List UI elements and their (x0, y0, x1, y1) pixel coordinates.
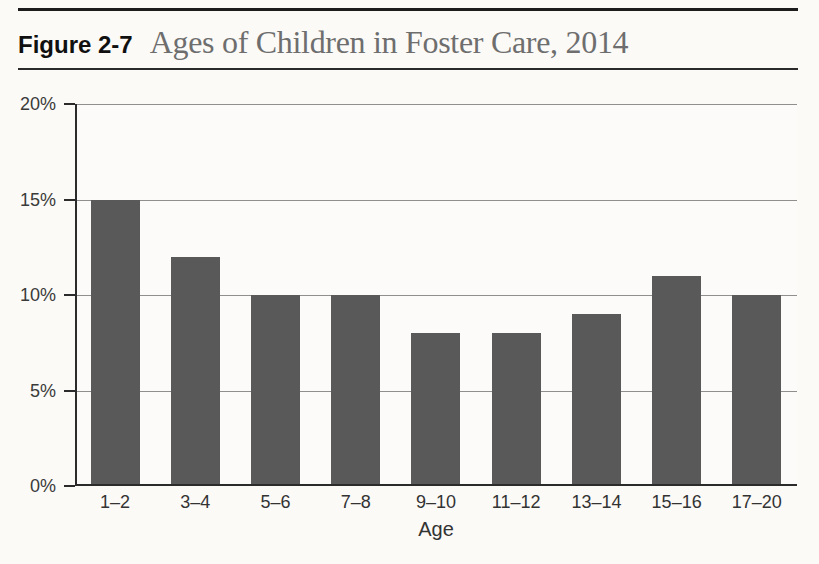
bar-13–14 (572, 314, 621, 486)
x-axis-title: Age (75, 518, 797, 541)
x-tick-label: 3–4 (155, 492, 235, 513)
x-axis-tick-labels: 1–23–45–67–89–1011–1213–1415–1617–20 (75, 492, 797, 513)
x-tick-label: 11–12 (476, 492, 556, 513)
bar-15–16 (652, 276, 701, 486)
y-tick-mark (64, 390, 75, 392)
bar-9–10 (411, 333, 460, 486)
x-tick-label: 1–2 (75, 492, 155, 513)
y-tick-label: 0% (30, 476, 56, 497)
x-axis-line (75, 484, 797, 486)
bar-17–20 (732, 295, 781, 486)
x-tick-label: 15–16 (637, 492, 717, 513)
y-tick-label: 10% (20, 285, 56, 306)
bar-7–8 (331, 295, 380, 486)
scanned-textbook-page: Figure 2-7 Ages of Children in Foster Ca… (0, 0, 819, 564)
y-tick-mark (64, 103, 75, 105)
top-rule-divider (18, 8, 798, 11)
y-axis-line (75, 104, 77, 486)
y-tick-mark (64, 294, 75, 296)
x-tick-label: 13–14 (556, 492, 636, 513)
x-tick-label: 17–20 (717, 492, 797, 513)
y-tick-mark (64, 485, 75, 487)
y-tick-label: 15% (20, 189, 56, 210)
y-tick-label: 5% (30, 380, 56, 401)
bar-1–2 (91, 200, 140, 487)
y-tick-label: 20% (20, 94, 56, 115)
y-tick-mark (64, 199, 75, 201)
x-tick-label: 5–6 (236, 492, 316, 513)
bar-11–12 (492, 333, 541, 486)
figure-title: Ages of Children in Foster Care, 2014 (150, 24, 629, 61)
y-axis-tick-labels: 0%5%10%15%20% (0, 104, 60, 486)
figure-header: Figure 2-7 Ages of Children in Foster Ca… (18, 24, 798, 61)
x-tick-label: 9–10 (396, 492, 476, 513)
bar-series (75, 104, 797, 486)
x-tick-label: 7–8 (316, 492, 396, 513)
bar-5–6 (251, 295, 300, 486)
plot-area (75, 104, 797, 486)
bar-3–4 (171, 257, 220, 486)
figure-number-label: Figure 2-7 (18, 31, 133, 59)
header-rule-divider (18, 68, 798, 70)
